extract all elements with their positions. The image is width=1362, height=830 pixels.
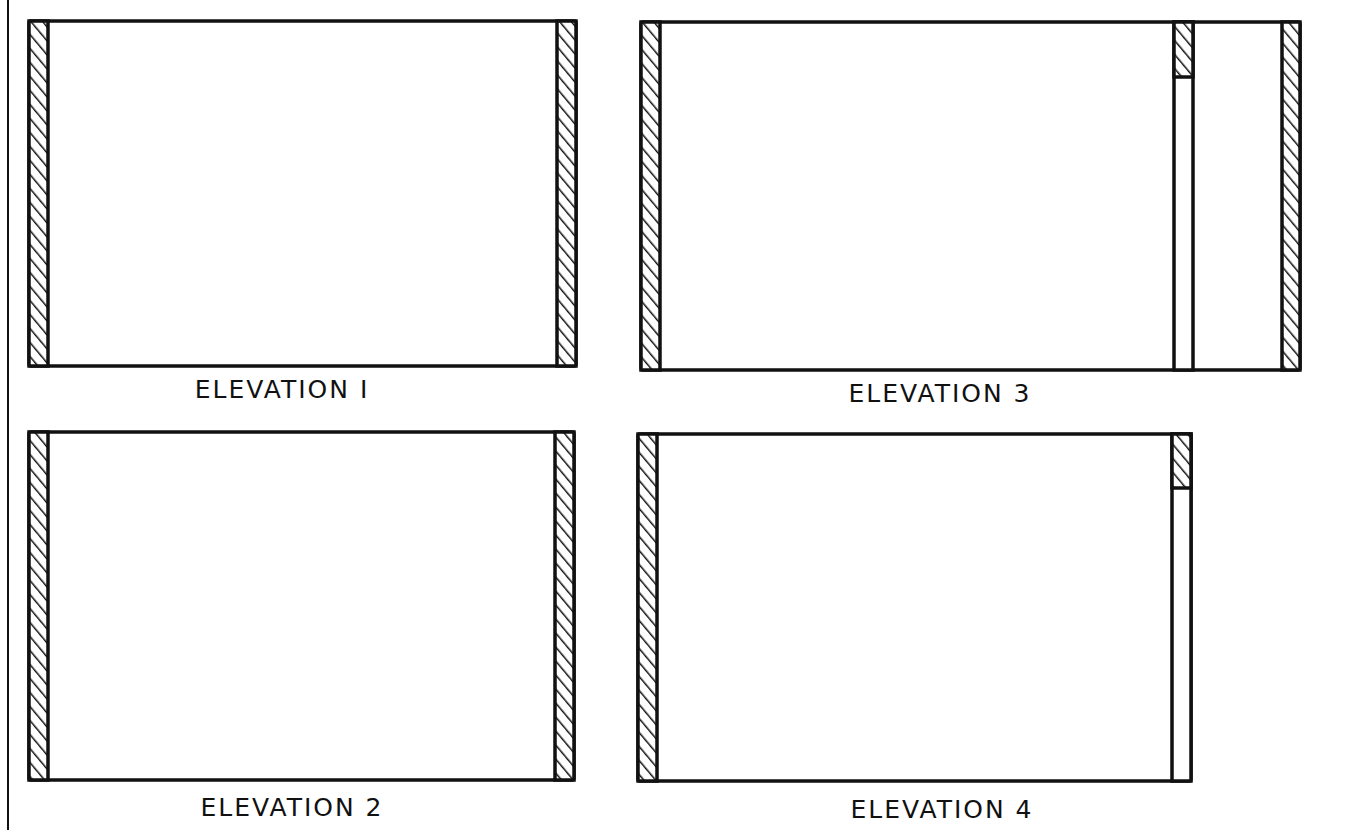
elevation-2-wall-1 (29, 432, 48, 780)
elevation-3 (641, 22, 1300, 370)
elevation-4-frame (638, 434, 1191, 781)
elevation-2-label: ELEVATION 2 (200, 793, 383, 822)
elevation-1-label: ELEVATION I (195, 375, 370, 404)
elevation-4 (638, 434, 1191, 781)
elevation-1 (29, 21, 576, 366)
elevation-3-opening-header (1174, 22, 1193, 77)
elevation-1-wall-2 (557, 21, 576, 366)
elevation-2-wall-2 (555, 432, 574, 780)
elevation-1-frame (29, 21, 576, 366)
elevations-drawing (0, 0, 1362, 830)
elevation-2 (29, 432, 574, 780)
elevation-4-wall-1 (638, 434, 657, 781)
elevation-3-wall-2 (1282, 22, 1300, 370)
elevation-1-wall-1 (29, 21, 48, 366)
elevation-4-label: ELEVATION 4 (850, 795, 1033, 824)
elevation-2-frame (29, 432, 574, 780)
elevation-3-wall-1 (641, 22, 660, 370)
elevation-4-opening-header (1172, 434, 1191, 488)
elevation-3-frame (641, 22, 1300, 370)
elevation-3-label: ELEVATION 3 (848, 379, 1031, 408)
